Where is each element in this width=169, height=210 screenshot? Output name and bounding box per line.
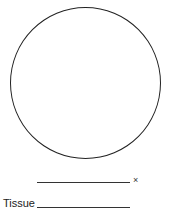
tissue-blank-line[interactable] [37, 207, 130, 208]
tissue-label: Tissue [3, 197, 35, 209]
magnification-suffix: × [133, 175, 138, 185]
microscope-field-of-view-circle [10, 7, 161, 159]
magnification-blank-line[interactable] [37, 182, 130, 183]
